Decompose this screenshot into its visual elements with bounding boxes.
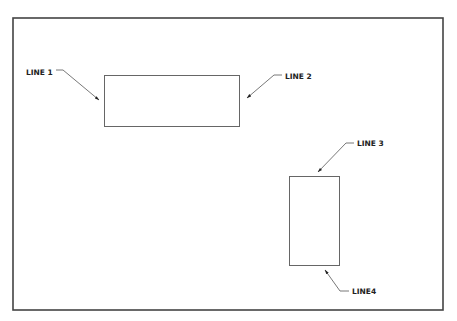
horizontal-rectangle bbox=[105, 76, 240, 127]
leader-line-2 bbox=[247, 75, 282, 98]
vertical-rectangle bbox=[290, 177, 340, 266]
drawing-canvas: LINE 1 LINE 2 LINE 3 LINE4 bbox=[0, 0, 457, 321]
label-line-2: LINE 2 bbox=[285, 72, 312, 81]
leader-line-3 bbox=[318, 143, 354, 172]
label-line-4: LINE4 bbox=[352, 287, 376, 296]
leader-line-1 bbox=[56, 70, 99, 100]
leader-line-4 bbox=[325, 270, 349, 291]
label-line-3: LINE 3 bbox=[357, 139, 384, 148]
label-line-1: LINE 1 bbox=[26, 68, 53, 77]
drawing-frame bbox=[13, 18, 443, 310]
